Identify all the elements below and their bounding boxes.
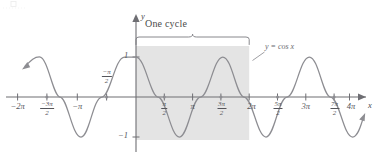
x-tick-label-3pi: 3π: [302, 102, 311, 111]
zero-crossing-dot: [105, 96, 108, 99]
arrow-right-icon: [358, 93, 366, 100]
fraction-denominator: 2: [330, 109, 339, 117]
fraction-denominator: 2: [101, 77, 111, 85]
arrow-up-icon: [132, 14, 139, 22]
x-tick-text: −π: [72, 101, 82, 111]
x-tick-label-3pi-over-2: 3π 2: [217, 100, 226, 117]
zero-crossing-dot: [333, 96, 336, 99]
fraction: 5π 2: [273, 100, 282, 117]
y-tick-label-1: 1: [124, 51, 128, 60]
fraction-denominator: 2: [162, 109, 168, 117]
zero-crossing-dot: [45, 96, 48, 99]
fraction-denominator: 2: [217, 109, 226, 117]
x-tick-label-negpi-over-2: −π 2: [101, 68, 111, 85]
fraction: −π 2: [101, 68, 111, 85]
x-tick-label-negpi: −π: [72, 102, 82, 111]
fraction-numerator: 5π: [273, 100, 282, 108]
fraction: 7π 2: [330, 100, 339, 117]
curve-leader-line: [253, 52, 265, 61]
zero-crossing-dot: [276, 96, 279, 99]
fraction-numerator: −3π: [40, 100, 54, 108]
fraction: π 2: [162, 100, 168, 117]
zero-crossing-dot: [219, 96, 222, 99]
x-tick-label-pi: π: [190, 102, 194, 111]
x-tick-label-pi-over-2: π 2: [162, 100, 168, 117]
x-tick-label-neg2pi: −2π: [10, 102, 24, 111]
x-axis-title: x: [368, 100, 372, 110]
fraction: −3π 2: [40, 100, 54, 117]
fraction: 3π 2: [217, 100, 226, 117]
x-tick-label-2pi: 2π: [247, 102, 256, 111]
x-tick-label-7pi-over-2: 7π 2: [330, 100, 339, 117]
y-axis-title: y: [141, 11, 145, 21]
one-cycle-shaded-band: [136, 46, 249, 140]
y-tick-text: −1: [118, 130, 128, 140]
zero-crossing-dot: [163, 96, 166, 99]
one-cycle-brace: [136, 34, 249, 44]
x-tick-text: −2π: [10, 101, 24, 111]
fraction-numerator: −π: [101, 68, 111, 76]
curve-equation-label: y = cos x: [265, 42, 294, 51]
y-tick-text: 1: [124, 50, 128, 60]
x-tick-text: π: [190, 101, 194, 111]
fraction-denominator: 2: [40, 109, 54, 117]
x-tick-text: 2π: [247, 101, 256, 111]
curve-equation-annotation: y = cos x: [265, 42, 294, 51]
fraction-numerator: 3π: [217, 100, 226, 108]
x-tick-text: 4π: [347, 101, 356, 111]
x-tick-label-4pi: 4π: [347, 102, 356, 111]
fraction-denominator: 2: [273, 109, 282, 117]
cosine-graph-figure: [0, 0, 386, 160]
y-axis-title-label: y: [141, 11, 145, 21]
y-tick-label-neg1: −1: [118, 131, 128, 140]
one-cycle-annotation: One cycle: [145, 18, 187, 29]
x-tick-label-neg3pi-over-2: −3π 2: [40, 100, 54, 117]
fraction-numerator: π: [162, 100, 168, 108]
one-cycle-label: One cycle: [145, 18, 187, 29]
fraction-numerator: 7π: [330, 100, 339, 108]
x-tick-text: 3π: [302, 101, 311, 111]
curve-right-arrow-icon: [359, 113, 365, 121]
x-tick-label-5pi-over-2: 5π 2: [273, 100, 282, 117]
x-axis-title-label: x: [368, 100, 372, 110]
